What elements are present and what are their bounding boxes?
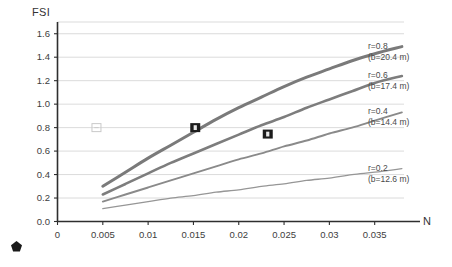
series-label-sub: (b=14.4 m) — [368, 117, 409, 128]
y-tick-label: 0.6 — [24, 145, 50, 156]
series-label-r0-2: r=0.2(b=12.6 m) — [368, 163, 409, 185]
x-tick-label: 0.035 — [363, 229, 387, 240]
series-label-main: r=0.8 — [368, 41, 388, 51]
marker-point-2 — [263, 130, 273, 139]
x-tick-label: 0.02 — [230, 229, 249, 240]
series-curve-r0-8 — [103, 47, 402, 187]
series-label-sub: (b=12.6 m) — [368, 174, 409, 185]
series-label-main: r=0.4 — [368, 106, 388, 116]
series-label-sub: (b=17.4 m) — [368, 81, 409, 92]
series-label-main: r=0.6 — [368, 70, 388, 80]
x-tick-label: 0.015 — [182, 229, 206, 240]
y-tick-label: 0.2 — [24, 192, 50, 203]
pentagon-badge-icon — [10, 240, 23, 253]
fsi-vs-n-chart: FSI N 0.00.20.40.60.81.01.21.41.6 00.005… — [0, 0, 452, 267]
x-axis-title: N — [423, 215, 431, 227]
x-tick-label: 0.025 — [272, 229, 296, 240]
y-tick-label: 0.8 — [24, 122, 50, 133]
series-label-main: r=0.2 — [368, 163, 388, 173]
series-label-r0-6: r=0.6(b=17.4 m) — [368, 70, 409, 92]
x-tick-label: 0.03 — [320, 229, 339, 240]
y-axis-title: FSI — [32, 6, 50, 18]
series-curve-r0-6 — [103, 76, 402, 195]
y-tick-label: 0.0 — [24, 216, 50, 227]
series-label-r0-4: r=0.4(b=14.4 m) — [368, 106, 409, 128]
y-tick-label: 1.6 — [24, 28, 50, 39]
y-tick-label: 1.2 — [24, 75, 50, 86]
series-label-sub: (b=20.4 m) — [368, 52, 409, 63]
y-tick-label: 1.4 — [24, 51, 50, 62]
y-tick-label: 1.0 — [24, 98, 50, 109]
x-tick-label: 0.01 — [139, 229, 158, 240]
x-tick-label: 0.005 — [91, 229, 115, 240]
y-tick-label: 0.4 — [24, 169, 50, 180]
marker-point-1 — [190, 123, 200, 132]
series-label-r0-8: r=0.8(b=20.4 m) — [368, 41, 409, 63]
x-tick-label: 0 — [55, 229, 60, 240]
